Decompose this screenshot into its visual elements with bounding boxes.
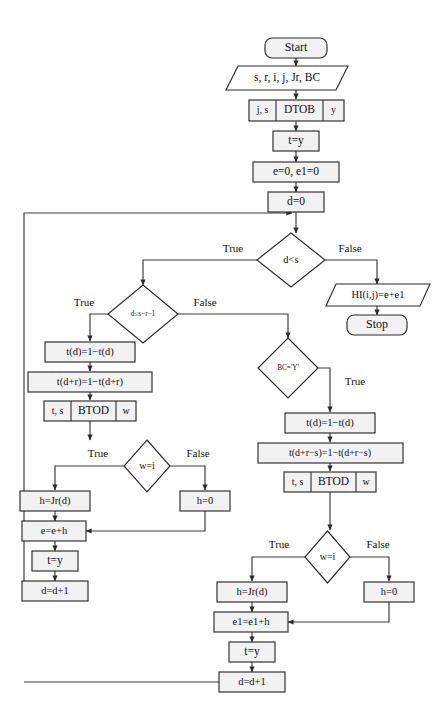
right-e1-sum-label: e1=e1+h	[233, 616, 271, 627]
node-right-t-eq-y: t=y	[229, 642, 275, 662]
left-tdr-label: t(d+r)=1−t(d+r)	[57, 376, 124, 388]
node-right-h-zero: h=0	[364, 582, 414, 602]
t-eq-y-1-label: t=y	[288, 134, 304, 147]
node-start: Start	[265, 38, 327, 58]
left-decision-w-label: w=i	[139, 460, 155, 471]
left-d-inc-label: d=d+1	[41, 585, 69, 596]
inputs-label: s, r, i, j, Jr, BC	[254, 71, 320, 84]
right-tdrs-label: t(d+r−s)=1−t(d+r−s)	[289, 447, 371, 459]
left-td-label: t(d)=1−t(d)	[66, 346, 114, 358]
connector-bc-true	[318, 368, 330, 412]
node-left-td: t(d)=1−t(d)	[45, 342, 135, 362]
node-right-d-inc: d=d+1	[219, 672, 285, 692]
right-btod-center-label: BTOD	[318, 475, 349, 487]
edge-label-d-le-true: True	[74, 296, 94, 308]
edge-label-d-lt-s-false: False	[338, 242, 361, 254]
connector-righthzero-to-e1sum	[288, 602, 389, 622]
left-btod-right-label: w	[122, 405, 130, 416]
right-btod-left-label: t, s	[292, 476, 304, 487]
node-d-init: d=0	[268, 192, 324, 212]
node-e-init: e=0, e1=0	[253, 162, 339, 182]
node-right-btod: t, s BTOD w	[284, 472, 376, 492]
node-right-td: t(d)=1−t(d)	[285, 413, 375, 433]
decision-bc-label: BC='Y'	[277, 364, 298, 372]
node-output-hi: HI(i,j)=e+e1	[326, 284, 430, 306]
right-d-inc-label: d=d+1	[238, 676, 266, 687]
flowchart-canvas: Start s, r, i, j, Jr, BC j, s DTOB y t=y…	[0, 0, 440, 721]
node-left-h-zero: h=0	[180, 491, 230, 511]
node-dtob: j, s DTOB y	[249, 100, 344, 121]
right-h-zero-label: h=0	[381, 586, 397, 597]
left-btod-center-label: BTOD	[78, 404, 109, 416]
edge-label-right-w-false: False	[366, 538, 389, 550]
d-init-label: d=0	[287, 195, 305, 207]
connector-decdle-true	[90, 314, 108, 341]
connector-decdle-false	[178, 314, 288, 338]
edge-label-right-w-true: True	[269, 538, 289, 550]
connector-decds-true	[143, 260, 257, 285]
connector-leftw-true	[55, 466, 124, 490]
node-decision-bc: BC='Y'	[258, 338, 318, 398]
node-right-decision-w: w=i	[305, 531, 350, 583]
node-right-e1-sum: e1=e1+h	[214, 612, 288, 632]
dtob-right-label: y	[331, 104, 336, 115]
right-t-eq-y-label: t=y	[244, 645, 260, 658]
node-left-btod: t, s BTOD w	[44, 401, 136, 421]
right-h-jr-label: h=Jr(d)	[237, 586, 269, 598]
left-e-sum-label: e=e+h	[41, 525, 68, 536]
output-hi-label: HI(i,j)=e+e1	[352, 289, 405, 301]
node-decision-d-le: d≤s−r−1	[108, 285, 178, 343]
node-left-e-sum: e=e+h	[22, 521, 86, 541]
decision-d-le-label: d≤s−r−1	[131, 310, 156, 318]
node-right-h-jr: h=Jr(d)	[217, 582, 287, 602]
connector-decds-false	[325, 260, 377, 284]
node-left-decision-w: w=i	[124, 440, 170, 492]
connector-lefthzero-to-esum	[86, 511, 205, 531]
edge-label-left-w-false: False	[186, 447, 209, 459]
left-h-zero-label: h=0	[197, 495, 213, 506]
right-decision-w-label: w=i	[320, 551, 336, 562]
node-stop: Stop	[347, 315, 407, 335]
node-t-eq-y-1: t=y	[273, 131, 319, 151]
stop-label: Stop	[366, 317, 388, 331]
left-t-eq-y-label: t=y	[47, 554, 63, 567]
node-right-tdrs: t(d+r−s)=1−t(d+r−s)	[258, 443, 403, 463]
edge-label-d-le-false: False	[193, 296, 216, 308]
edge-label-bc-true: True	[345, 375, 365, 387]
node-left-tdr: t(d+r)=1−t(d+r)	[28, 372, 152, 392]
left-h-jr-label: h=Jr(d)	[40, 495, 72, 507]
flowchart-diagram: Start s, r, i, j, Jr, BC j, s DTOB y t=y…	[0, 0, 440, 721]
node-left-t-eq-y: t=y	[32, 551, 78, 571]
dtob-left-label: j, s	[256, 104, 269, 115]
node-left-h-jr: h=Jr(d)	[20, 491, 90, 511]
connector-rightw-false	[350, 557, 389, 581]
connector-rightw-true	[252, 557, 305, 581]
node-inputs: s, r, i, j, Jr, BC	[226, 66, 348, 90]
node-decision-d-lt-s: d<s	[257, 233, 325, 287]
edge-label-d-lt-s-true: True	[223, 242, 243, 254]
e-init-label: e=0, e1=0	[273, 165, 319, 178]
dtob-center-label: DTOB	[284, 103, 315, 115]
right-td-label: t(d)=1−t(d)	[306, 417, 354, 429]
right-btod-right-label: w	[362, 476, 370, 487]
decision-d-lt-s-label: d<s	[283, 254, 298, 265]
connector-leftw-false	[170, 466, 205, 490]
start-label: Start	[285, 40, 308, 54]
node-left-d-inc: d=d+1	[22, 581, 88, 601]
left-btod-left-label: t, s	[52, 405, 64, 416]
edge-label-left-w-true: True	[88, 447, 108, 459]
